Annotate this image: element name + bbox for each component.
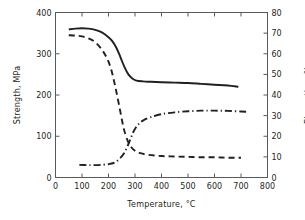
tick-label: 70 bbox=[272, 29, 282, 38]
tick-label: 100 bbox=[36, 132, 51, 141]
tick-label: 400 bbox=[154, 182, 169, 191]
tick-label: 0 bbox=[53, 182, 58, 191]
chart-plot-svg: 0100200300400500600700800 0100200300400 … bbox=[0, 0, 305, 220]
tick-label: 200 bbox=[36, 91, 51, 100]
y-axis-right-tick-labels: 01020304050607080 bbox=[272, 9, 282, 183]
tick-label: 0 bbox=[46, 174, 51, 183]
y-axis-right-ticks bbox=[264, 33, 268, 157]
x-axis-ticks bbox=[82, 174, 241, 178]
tick-label: 0 bbox=[272, 174, 277, 183]
y-axis-left-ticks bbox=[56, 54, 60, 137]
axes-frame bbox=[56, 13, 268, 178]
tick-label: 700 bbox=[233, 182, 248, 191]
series-line bbox=[69, 35, 241, 158]
tick-label: 500 bbox=[180, 182, 195, 191]
tick-label: 300 bbox=[36, 50, 51, 59]
y-axis-left-tick-labels: 0100200300400 bbox=[36, 9, 51, 183]
data-series-group bbox=[69, 28, 249, 165]
tick-label: 600 bbox=[207, 182, 222, 191]
tick-label: 40 bbox=[272, 91, 282, 100]
chart-figure: 0100200300400500600700800 0100200300400 … bbox=[0, 0, 305, 220]
tick-label: 80 bbox=[272, 9, 282, 18]
y-axis-left-label: Strength, MPa bbox=[12, 12, 24, 178]
tick-label: 300 bbox=[127, 182, 142, 191]
tick-label: 30 bbox=[272, 112, 282, 121]
tick-label: 60 bbox=[272, 50, 282, 59]
tick-label: 10 bbox=[272, 153, 282, 162]
plot-frame bbox=[56, 13, 268, 178]
y-axis-right-label: Elongation, % bbox=[303, 12, 305, 178]
x-axis-tick-labels: 0100200300400500600700800 bbox=[53, 182, 275, 191]
tick-label: 400 bbox=[36, 9, 51, 18]
tick-label: 20 bbox=[272, 132, 282, 141]
top-axis-ticks bbox=[82, 13, 241, 17]
tick-label: 50 bbox=[272, 70, 282, 79]
tick-label: 800 bbox=[260, 182, 275, 191]
tick-label: 100 bbox=[74, 182, 89, 191]
tick-label: 200 bbox=[101, 182, 116, 191]
x-axis-label: Temperature, °C bbox=[55, 200, 268, 209]
series-line bbox=[69, 28, 239, 87]
